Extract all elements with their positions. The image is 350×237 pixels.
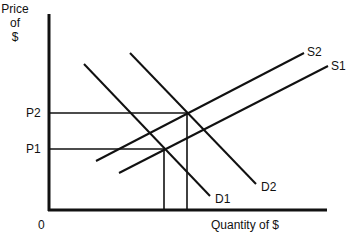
y-axis-label-line-3: $ (0, 30, 30, 44)
curve-label-d2: D2 (261, 181, 276, 193)
y-axis-label-line-1: Price (0, 2, 30, 16)
x-axis-label: Quantity of $ (211, 219, 279, 231)
supply-curve-s1 (119, 66, 328, 173)
demand-curve-d2 (130, 53, 256, 184)
curve-label-s1: S1 (331, 60, 346, 72)
price-label-p2: P2 (26, 107, 41, 119)
y-axis-label: Price of $ (0, 2, 30, 44)
curve-label-d1: D1 (215, 193, 230, 205)
supply-curve-s2 (96, 53, 304, 161)
y-axis-label-line-2: of (0, 16, 30, 30)
curve-label-s2: S2 (307, 46, 322, 58)
supply-demand-diagram (0, 0, 350, 237)
demand-curve-d1 (84, 64, 210, 196)
origin-label: 0 (38, 219, 45, 231)
price-label-p1: P1 (26, 143, 41, 155)
